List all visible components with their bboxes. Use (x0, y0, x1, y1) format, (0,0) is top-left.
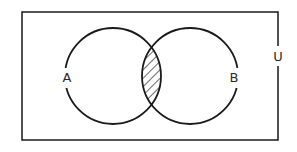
set-a-label: A (63, 70, 72, 85)
universe-label: U (273, 49, 283, 64)
venn-diagram: A B U (0, 0, 297, 152)
set-b-label: B (230, 70, 239, 85)
